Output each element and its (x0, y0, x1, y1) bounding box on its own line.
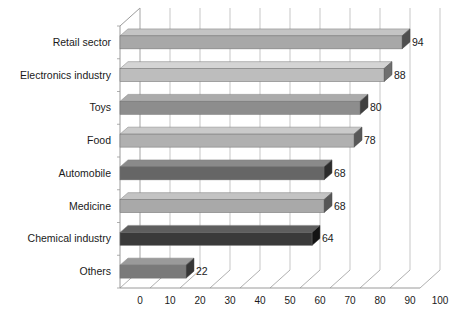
bar-4 (120, 127, 362, 147)
x-tick-labels-group: 0102030405060708090100 (137, 295, 449, 306)
value-label-8: 22 (196, 265, 208, 277)
bar-front-face-7 (120, 232, 312, 245)
bar-6 (120, 193, 332, 213)
category-label-1: Retail sector (53, 36, 112, 48)
x-tick-label-60: 60 (314, 295, 326, 306)
bar-5 (120, 160, 332, 180)
axis-tick-30 (210, 270, 230, 288)
bar-chart: Retail sectorElectronics industryToysFoo… (0, 0, 459, 323)
bar-front-face-8 (120, 265, 186, 278)
bar-7 (120, 225, 320, 245)
category-labels-group: Retail sectorElectronics industryToysFoo… (20, 36, 112, 277)
gridlines-group (120, 8, 440, 288)
category-label-4: Food (87, 134, 111, 146)
value-label-1: 94 (412, 36, 424, 48)
x-tick-label-70: 70 (344, 295, 356, 306)
axis-tick-100 (420, 270, 440, 288)
bar-top-face-6 (120, 193, 332, 200)
x-tick-label-0: 0 (137, 295, 143, 306)
category-label-6: Medicine (69, 200, 111, 212)
bar-front-face-2 (120, 69, 384, 82)
bar-3 (120, 94, 368, 114)
axis-tick-90 (390, 270, 410, 288)
category-label-5: Automobile (58, 167, 111, 179)
bar-top-face-7 (120, 225, 320, 232)
x-tick-label-80: 80 (374, 295, 386, 306)
x-tick-label-20: 20 (194, 295, 206, 306)
value-label-5: 68 (334, 167, 346, 179)
y-axis-top-connector (120, 8, 140, 26)
value-label-2: 88 (394, 69, 406, 81)
axis-tick-60 (300, 270, 320, 288)
bar-front-face-4 (120, 134, 354, 147)
category-label-8: Others (79, 265, 111, 277)
x-tick-label-10: 10 (164, 295, 176, 306)
value-label-6: 68 (334, 200, 346, 212)
bar-top-face-2 (120, 62, 392, 69)
axis-group (117, 8, 420, 288)
axis-tick-40 (240, 270, 260, 288)
bars-group (120, 29, 410, 278)
category-label-2: Electronics industry (20, 69, 112, 81)
bar-top-face-3 (120, 94, 368, 101)
bar-top-face-4 (120, 127, 362, 134)
axis-tick-50 (270, 270, 290, 288)
bar-front-face-6 (120, 200, 324, 213)
category-label-3: Toys (89, 101, 111, 113)
axis-tick-70 (330, 270, 350, 288)
bar-top-face-5 (120, 160, 332, 167)
bar-2 (120, 62, 392, 82)
x-tick-label-50: 50 (284, 295, 296, 306)
x-tick-label-30: 30 (224, 295, 236, 306)
category-label-7: Chemical industry (28, 232, 112, 244)
value-label-4: 78 (364, 134, 376, 146)
x-tick-label-90: 90 (404, 295, 416, 306)
axis-tick-80 (360, 270, 380, 288)
x-tick-label-100: 100 (432, 295, 449, 306)
bar-front-face-1 (120, 36, 402, 49)
x-tick-label-40: 40 (254, 295, 266, 306)
bar-front-face-3 (120, 101, 360, 114)
bar-8 (120, 258, 194, 278)
bar-top-face-1 (120, 29, 410, 36)
value-label-3: 80 (370, 101, 382, 113)
bar-1 (120, 29, 410, 49)
bar-top-face-8 (120, 258, 194, 265)
value-label-7: 64 (322, 232, 334, 244)
chart-canvas: Retail sectorElectronics industryToysFoo… (0, 0, 459, 323)
bar-front-face-5 (120, 167, 324, 180)
